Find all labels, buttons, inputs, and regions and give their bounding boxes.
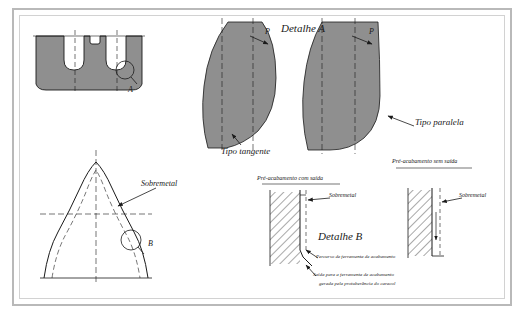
label-callout-p-left: P [265, 28, 270, 36]
label-detalhe-a: Detalhe A [281, 23, 325, 35]
label-pre-acabamento-com-saida: Pré-acabamento com saída [257, 175, 323, 181]
figure-frame [12, 8, 512, 306]
figure-page: Detalhe A P P Tipo tangente Tipo paralel… [0, 0, 527, 319]
label-tipo-tangente: Tipo tangente [221, 147, 270, 156]
label-percurso-ferramenta: Percurso de ferramenta de acabamento [316, 254, 395, 259]
label-callout-p-right: P [369, 28, 374, 36]
label-callout-a: A [128, 86, 133, 94]
label-sobremetal-right: Sobremetal [459, 192, 486, 198]
label-saida-ferramenta-line2: gerada pela protuberância do caracol [319, 281, 395, 286]
label-detalhe-b: Detalhe B [318, 231, 362, 243]
figure-frame-inner [19, 15, 505, 299]
label-saida-ferramenta-line1: Saída para a ferramenta de acabamento [313, 272, 394, 277]
label-sobremetal-mid: Sobremetal [329, 192, 356, 198]
label-callout-b: B [148, 240, 153, 248]
label-pre-acabamento-sem-saida: Pré-acabamento sem saída [392, 158, 457, 164]
label-tipo-paralela: Tipo paralela [415, 118, 464, 127]
label-sobremetal-left: Sobremetal [141, 180, 177, 188]
